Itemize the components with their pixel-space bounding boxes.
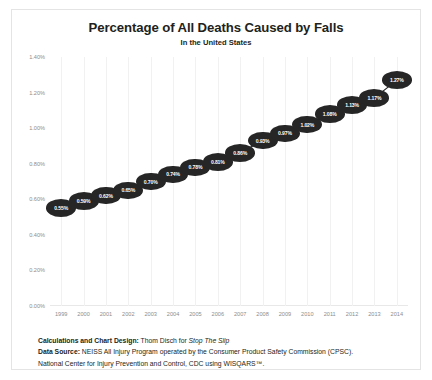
x-axis-tick-label: 2013 — [368, 311, 380, 317]
credit-label: Calculations and Chart Design: — [38, 337, 139, 344]
source-line-2: National Center for Injury Prevention an… — [38, 358, 418, 369]
x-axis-tick-label: 2008 — [256, 311, 268, 317]
data-point-marker: 1.27% — [382, 71, 412, 89]
source-text-1: NEISS All Injury Program operated by the… — [82, 348, 353, 355]
credit-text: Thom Disch for — [141, 337, 187, 344]
x-axis-tick-label: 2001 — [100, 311, 112, 317]
chart-title: Percentage of All Deaths Caused by Falls — [12, 20, 420, 35]
x-axis-tick-label: 2014 — [391, 311, 403, 317]
x-axis-tick-label: 2007 — [234, 311, 246, 317]
source-text-2: National Center for Injury Prevention an… — [38, 360, 264, 367]
series-markers: 0.55%0.59%0.62%0.65%0.70%0.74%0.78%0.81%… — [50, 57, 408, 306]
x-axis-tick-label: 2010 — [301, 311, 313, 317]
x-axis-tick-label: 2006 — [212, 311, 224, 317]
y-axis-tick-label: 1.00% — [29, 125, 45, 131]
plot-area: 1.40%1.20%1.00%0.80%0.60%0.40%0.20%0.00%… — [50, 57, 408, 306]
footer-notes: Calculations and Chart Design: Thom Disc… — [38, 335, 418, 369]
chart-subtitle: In the United States — [12, 38, 420, 47]
y-axis-tick-label: 0.60% — [29, 196, 45, 202]
y-axis-tick-label: 0.20% — [29, 267, 45, 273]
x-axis-tick-label: 2005 — [189, 311, 201, 317]
y-axis-tick-label: 0.00% — [29, 303, 45, 309]
x-axis-tick-label: 2004 — [167, 311, 179, 317]
y-axis-tick-label: 0.40% — [29, 232, 45, 238]
source-line-1: Data Source: NEISS All Injury Program op… — [38, 346, 418, 357]
x-axis-tick-label: 2012 — [346, 311, 358, 317]
x-axis-tick-label: 1999 — [55, 311, 67, 317]
y-axis-tick-label: 1.20% — [29, 90, 45, 96]
y-axis-tick-label: 0.80% — [29, 161, 45, 167]
x-axis-tick-label: 2002 — [122, 311, 134, 317]
x-axis-tick-label: 2000 — [77, 311, 89, 317]
x-axis-tick-label: 2011 — [324, 311, 336, 317]
x-axis-tick-label: 2003 — [144, 311, 156, 317]
x-axis-tick-label: 2009 — [279, 311, 291, 317]
credit-brand: Stop The Slip — [189, 337, 230, 344]
chart-card: Percentage of All Deaths Caused by Falls… — [11, 9, 421, 370]
source-label: Data Source: — [38, 348, 80, 355]
data-point-marker: 1.17% — [359, 89, 389, 107]
y-axis-tick-label: 1.40% — [29, 54, 45, 60]
credit-line: Calculations and Chart Design: Thom Disc… — [38, 335, 418, 346]
data-point-marker: 0.86% — [225, 144, 255, 162]
